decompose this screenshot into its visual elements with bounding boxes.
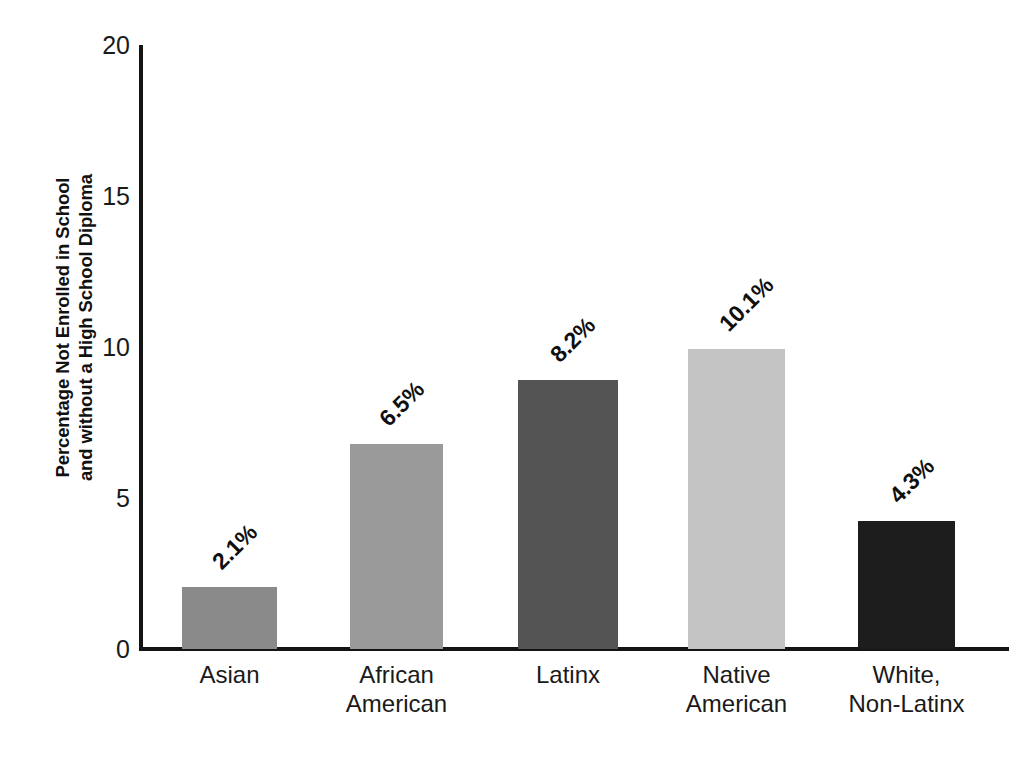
x-tick-label-white-non-latinx: White, Non-Latinx: [797, 660, 1017, 719]
y-tick-label-5: 5: [78, 486, 130, 511]
bar-value-label: 10.1%: [713, 272, 778, 337]
y-tick-label-15: 15: [78, 184, 130, 209]
bar-african-american[interactable]: 6.5%: [350, 444, 443, 649]
y-tick-label-20: 20: [78, 33, 130, 58]
plot-area: 2.1%6.5%8.2%10.1%4.3%: [142, 45, 1009, 649]
y-tick-label-0: 0: [78, 637, 130, 662]
bar-value-label: 6.5%: [373, 375, 429, 431]
bar-value-label: 4.3%: [883, 452, 939, 508]
bar-value-label: 8.2%: [545, 311, 601, 367]
bar-white-non-latinx[interactable]: 4.3%: [858, 521, 955, 649]
bar-chart-figure: Percentage Not Enrolled in School and wi…: [0, 0, 1029, 761]
bar-value-label: 2.1%: [206, 519, 262, 575]
bar-native-american[interactable]: 10.1%: [688, 349, 785, 649]
bar-latinx[interactable]: 8.2%: [518, 380, 618, 649]
bar-asian[interactable]: 2.1%: [182, 587, 277, 649]
y-tick-label-10: 10: [78, 335, 130, 360]
y-axis-tick-labels: 20151050: [78, 0, 130, 761]
